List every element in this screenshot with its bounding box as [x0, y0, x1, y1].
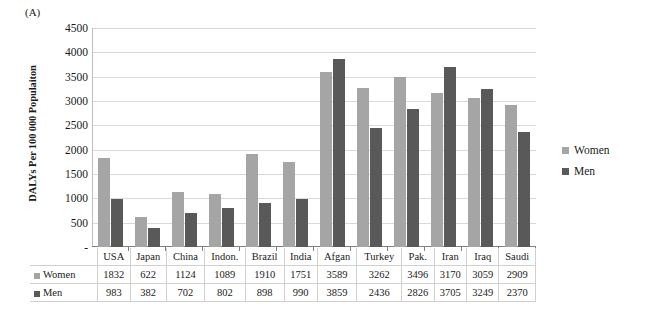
- table-cell: 898: [245, 284, 284, 302]
- bar-group: [425, 28, 462, 247]
- bars-layer: [92, 28, 536, 247]
- bar-women-pak: [394, 77, 406, 247]
- data-table: USAJapanChinaIndon.BrazilIndiaAfganTurke…: [30, 248, 536, 302]
- bar-men-afgan: [333, 59, 345, 247]
- bar-group: [166, 28, 203, 247]
- bar-men-usa: [111, 199, 123, 247]
- table-cell: 3249: [466, 284, 498, 302]
- legend-item-men: Men: [562, 165, 609, 177]
- table-column-header: Brazil: [245, 248, 284, 266]
- bar-women-usa: [98, 158, 110, 247]
- bar-men-pak: [407, 109, 419, 247]
- bar-women-india: [283, 162, 295, 247]
- legend-swatch-icon: [562, 168, 569, 175]
- bar-women-japan: [135, 217, 147, 247]
- table-cell: 3262: [357, 266, 402, 284]
- table-cell: 2826: [402, 284, 434, 302]
- chart-figure: (A) DALYs Per 100 000 Populaiton 4500400…: [0, 0, 652, 329]
- bar-women-saudi: [505, 105, 517, 247]
- bar-group: [203, 28, 240, 247]
- table-cell: 3589: [317, 266, 357, 284]
- chart-legend: WomenMen: [562, 144, 609, 186]
- y-axis-tick-label: 1500: [36, 168, 88, 180]
- table-column-header: Saudi: [499, 248, 536, 266]
- table-column-header: India: [284, 248, 317, 266]
- table-column-header: Turkey: [357, 248, 402, 266]
- table-cell: 1832: [98, 266, 131, 284]
- bar-men-turkey: [370, 128, 382, 247]
- series-swatch-icon: [34, 273, 40, 279]
- bar-men-iraq: [481, 89, 493, 247]
- table-cell: 622: [130, 266, 166, 284]
- table-cell: 802: [204, 284, 245, 302]
- y-axis-tick-label: 4500: [36, 22, 88, 34]
- table-cell: 3059: [466, 266, 498, 284]
- y-axis-tick-label: 2000: [36, 144, 88, 156]
- bar-group: [351, 28, 388, 247]
- table-column-header: Pak.: [402, 248, 434, 266]
- table-cell: 2436: [357, 284, 402, 302]
- bar-men-india: [296, 199, 308, 247]
- table-column-header: Afgan: [317, 248, 357, 266]
- table-corner-cell: [30, 248, 98, 266]
- bar-men-brazil: [259, 203, 271, 247]
- y-axis-tick-label: 500: [36, 217, 88, 229]
- table-cell: 3496: [402, 266, 434, 284]
- bar-group: [240, 28, 277, 247]
- table-column-header: Iraq: [466, 248, 498, 266]
- legend-label: Men: [574, 165, 595, 177]
- bar-women-iran: [431, 93, 443, 247]
- table-column-header: USA: [98, 248, 131, 266]
- table-cell: 382: [130, 284, 166, 302]
- table-cell: 983: [98, 284, 131, 302]
- legend-item-women: Women: [562, 144, 609, 156]
- y-axis-tick-label: 3000: [36, 95, 88, 107]
- table-row: Women18326221124108919101751358932623496…: [30, 266, 536, 284]
- table-cell: 1910: [245, 266, 284, 284]
- panel-label: (A): [25, 6, 40, 18]
- bar-men-saudi: [518, 132, 530, 247]
- bar-men-indon: [222, 208, 234, 247]
- bar-women-afgan: [320, 72, 332, 247]
- table-cell: 702: [166, 284, 204, 302]
- legend-label: Women: [574, 144, 609, 156]
- y-axis-tick-label: 2500: [36, 119, 88, 131]
- bar-men-japan: [148, 228, 160, 247]
- bar-group: [462, 28, 499, 247]
- bar-men-iran: [444, 67, 456, 247]
- table-cell: 1124: [166, 266, 204, 284]
- bar-women-turkey: [357, 88, 369, 247]
- table-cell: 990: [284, 284, 317, 302]
- table-row-label-men: Men: [30, 284, 98, 302]
- table-column-header: China: [166, 248, 204, 266]
- bar-group: [92, 28, 129, 247]
- bar-group: [129, 28, 166, 247]
- bar-group: [388, 28, 425, 247]
- table-cell: 2909: [499, 266, 536, 284]
- plot-area: [92, 28, 536, 247]
- table-header-row: USAJapanChinaIndon.BrazilIndiaAfganTurke…: [30, 248, 536, 266]
- bar-group: [277, 28, 314, 247]
- y-axis-tick-label: 3500: [36, 71, 88, 83]
- bar-group: [499, 28, 536, 247]
- bar-women-china: [172, 192, 184, 247]
- table-cell: 3170: [434, 266, 466, 284]
- legend-swatch-icon: [562, 147, 569, 154]
- table-column-header: Indon.: [204, 248, 245, 266]
- y-axis-tick-label: 1000: [36, 192, 88, 204]
- table-cell: 1751: [284, 266, 317, 284]
- bar-women-iraq: [468, 98, 480, 247]
- y-axis-tick-labels: 45004000350030002500200015001000500-: [33, 28, 88, 247]
- bar-group: [314, 28, 351, 247]
- table-cell: 3859: [317, 284, 357, 302]
- bar-men-china: [185, 213, 197, 247]
- table-row-label-women: Women: [30, 266, 98, 284]
- y-axis-tick-label: 4000: [36, 46, 88, 58]
- bar-women-indon: [209, 194, 221, 247]
- table-cell: 2370: [499, 284, 536, 302]
- table-column-header: Iran: [434, 248, 466, 266]
- table-cell: 1089: [204, 266, 245, 284]
- table-column-header: Japan: [130, 248, 166, 266]
- series-swatch-icon: [34, 291, 40, 297]
- bar-women-brazil: [246, 154, 258, 247]
